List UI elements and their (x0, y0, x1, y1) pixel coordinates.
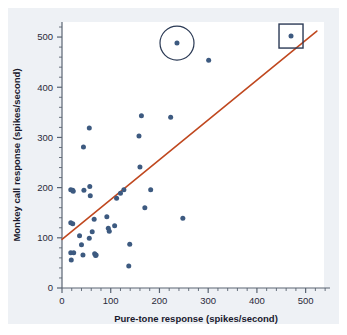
x-tick-label: 100 (103, 295, 119, 306)
data-point (87, 236, 92, 241)
data-point (80, 252, 85, 257)
y-tick-label: 300 (37, 132, 53, 143)
x-tick-label: 500 (298, 295, 314, 306)
x-axis-ticks (62, 288, 325, 293)
data-point (206, 58, 211, 63)
data-point (70, 221, 75, 226)
x-tick-label: 400 (249, 295, 265, 306)
data-point (94, 252, 99, 257)
data-point (81, 144, 86, 149)
x-tick-label: 200 (152, 295, 168, 306)
y-tick-label: 200 (37, 182, 53, 193)
x-tick-labels: 0100200300400500 (59, 295, 313, 306)
data-point (71, 250, 76, 255)
data-point (79, 242, 84, 247)
data-point (127, 242, 132, 247)
chart-canvas: 0100200300400500 0100200300400500 Pure-t… (0, 0, 347, 335)
data-point (114, 196, 119, 201)
data-point (174, 41, 179, 46)
data-point (77, 233, 82, 238)
data-point (142, 205, 147, 210)
data-point (126, 263, 131, 268)
y-axis-title: Monkey call response (spikes/second) (11, 68, 22, 241)
data-point (90, 229, 95, 234)
y-tick-label: 500 (37, 31, 53, 42)
data-point (107, 229, 112, 234)
data-point (87, 125, 92, 130)
y-tick-label: 400 (37, 82, 53, 93)
data-point (88, 193, 93, 198)
data-point (112, 223, 117, 228)
data-point (168, 115, 173, 120)
x-axis-title: Pure-tone response (spikes/second) (114, 313, 278, 324)
data-point (289, 34, 294, 39)
data-point (136, 133, 141, 138)
data-point (92, 217, 97, 222)
y-axis-ticks (57, 27, 62, 288)
data-point (148, 187, 153, 192)
data-point (71, 189, 76, 194)
data-point (121, 187, 126, 192)
data-point (81, 188, 86, 193)
data-point (104, 214, 109, 219)
y-tick-label: 100 (37, 232, 53, 243)
y-tick-label: 0 (48, 282, 53, 293)
data-point (180, 216, 185, 221)
plot-area-background (62, 22, 324, 288)
data-point (69, 257, 74, 262)
data-point (139, 113, 144, 118)
y-tick-labels: 0100200300400500 (37, 31, 53, 293)
data-point (137, 165, 142, 170)
scatter-plot-figure: 0100200300400500 0100200300400500 Pure-t… (0, 0, 347, 335)
x-tick-label: 300 (200, 295, 216, 306)
x-tick-label: 0 (59, 295, 64, 306)
data-point (87, 184, 92, 189)
